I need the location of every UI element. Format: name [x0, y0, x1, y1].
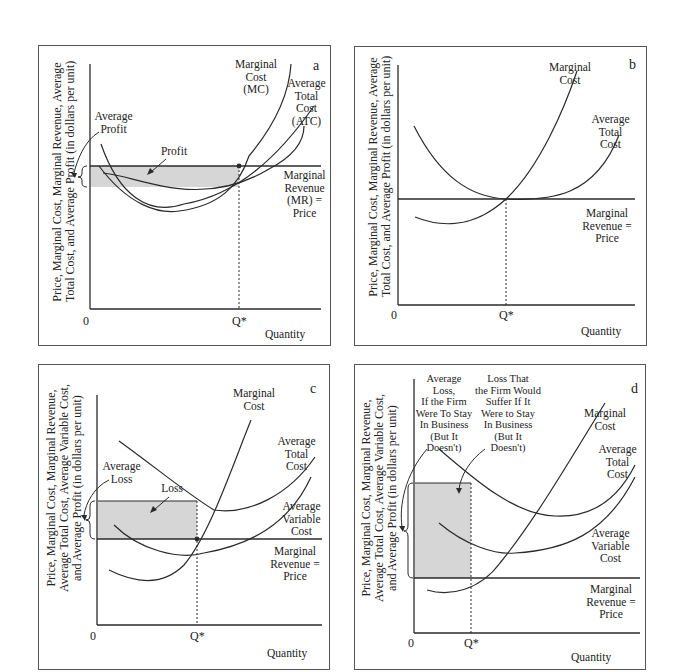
- mc-curve: [109, 420, 251, 581]
- qstar-label: Q*: [232, 314, 247, 329]
- panel-letter: a: [313, 58, 319, 74]
- avc-label: AverageVariableCost: [583, 527, 638, 565]
- y-axis-label: Price, Marginal Cost, Marginal Revenue, …: [51, 62, 77, 302]
- avg-profit-brace: [78, 166, 87, 187]
- y-axis-label: Price, Marginal Cost, Marginal Revenue, …: [45, 383, 84, 593]
- panel-a: Price, Marginal Cost, Marginal Revenue, …: [38, 45, 331, 346]
- avg-loss-brace: [404, 483, 413, 578]
- y-axis-label: Price, Marginal Cost, Marginal Revenue, …: [367, 57, 393, 297]
- panel-letter: c: [310, 381, 316, 397]
- profit-region: [91, 166, 239, 187]
- mc-label: MarginalCost: [580, 407, 630, 432]
- x-axis-label: Quantity: [581, 325, 621, 337]
- equilibrium-point: [237, 164, 242, 169]
- atc-label: AverageTotalCost: [595, 443, 640, 481]
- avg-loss-brace: [86, 501, 95, 539]
- origin-label: 0: [408, 636, 414, 651]
- mr-label: MarginalRevenue =Price: [577, 207, 637, 245]
- mr-label: MarginalRevenue =Price: [581, 583, 641, 621]
- intersection-point: [195, 537, 200, 542]
- atc-label: AverageTotalCost: [274, 435, 319, 473]
- qstar-label: Q*: [464, 636, 479, 651]
- avg-loss-label: AverageLoss: [99, 460, 144, 485]
- loss-label: Loss Thatthe Firm WouldSuffer If ItWere …: [473, 373, 543, 454]
- mr-label: MarginalRevenue =Price: [265, 545, 325, 583]
- qstar-label: Q*: [499, 308, 514, 323]
- mc-label: MarginalCost(MC): [231, 58, 281, 96]
- loss-region: [98, 501, 197, 539]
- panel-letter: d: [631, 381, 638, 397]
- avc-label: AverageVariableCost: [274, 500, 329, 538]
- panel-c: Price, Marginal Cost, Marginal Revenue, …: [38, 364, 330, 670]
- x-axis-label: Quantity: [571, 651, 611, 663]
- origin-label: 0: [83, 314, 89, 329]
- origin-label: 0: [391, 308, 397, 323]
- panel-b: Price, Marginal Cost, Marginal Revenue, …: [354, 46, 647, 346]
- origin-label: 0: [90, 629, 96, 644]
- avg-profit-label: AverageProfit: [91, 110, 136, 135]
- avg-loss-label: AverageLoss,If the FirmWere To StayIn Bu…: [415, 373, 473, 454]
- mc-label: MarginalCost: [229, 387, 279, 412]
- atc-label: AverageTotalCost(ATC): [284, 77, 329, 127]
- loss-label: Loss: [152, 482, 192, 495]
- atc-label: AverageTotalCost: [588, 113, 633, 151]
- mr-label: MarginalRevenue(MR) =Price: [277, 169, 332, 219]
- y-axis-label: Price, Marginal Cost, Marginal Revenue, …: [360, 393, 399, 603]
- panel-letter: b: [629, 57, 636, 73]
- panel-d: Price, Marginal Cost, Marginal Revenue, …: [354, 364, 646, 670]
- mc-curve: [415, 71, 577, 224]
- loss-region: [415, 483, 471, 578]
- panel-b-plot: [355, 47, 648, 347]
- x-axis-label: Quantity: [265, 328, 305, 340]
- profit-label: Profit: [154, 145, 194, 158]
- x-axis-label: Quantity: [267, 647, 307, 659]
- mc-label: MarginalCost: [545, 61, 595, 86]
- qstar-label: Q*: [190, 629, 205, 644]
